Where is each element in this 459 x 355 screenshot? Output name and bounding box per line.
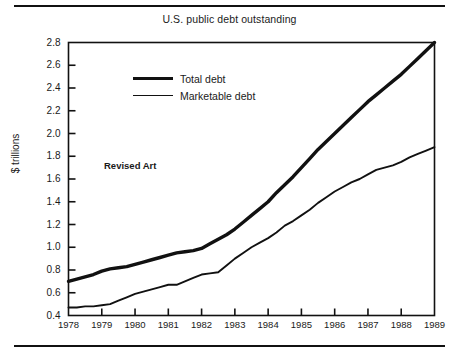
- x-axis-tick-label: 1989: [413, 320, 457, 330]
- chart-legend: Total debtMarketable debt: [133, 70, 255, 104]
- y-axis-tick-label: 1.8: [31, 151, 61, 161]
- plot-area: [0, 0, 459, 355]
- y-axis-tick-label: 2.0: [31, 129, 61, 139]
- y-axis-tick-label: 1.2: [31, 220, 61, 230]
- y-axis-tick-label: 2.8: [31, 38, 61, 48]
- y-axis-tick-label: 0.4: [31, 311, 61, 321]
- y-axis-tick-label: 0.6: [31, 288, 61, 298]
- x-axis-ticks: [102, 309, 401, 316]
- y-axis-tick-label: 2.2: [31, 106, 61, 116]
- legend-line-swatch: [133, 77, 173, 80]
- legend-label: Total debt: [180, 73, 226, 85]
- revised-art-annotation: Revised Art: [104, 160, 156, 171]
- legend-item-1: Total debt: [133, 70, 255, 87]
- y-axis-ticks: [69, 65, 76, 293]
- y-axis-tick-label: 1.4: [31, 197, 61, 207]
- chart-figure: U.S. public debt outstanding $ trillions…: [0, 0, 459, 355]
- y-axis-tick-label: 2.4: [31, 83, 61, 93]
- y-axis-tick-label: 1.0: [31, 242, 61, 252]
- y-axis-tick-label: 1.6: [31, 174, 61, 184]
- legend-line-swatch: [133, 95, 173, 97]
- legend-item-2: Marketable debt: [133, 87, 255, 104]
- y-axis-tick-label: 0.8: [31, 265, 61, 275]
- y-axis-tick-label: 2.6: [31, 60, 61, 70]
- legend-label: Marketable debt: [180, 90, 255, 102]
